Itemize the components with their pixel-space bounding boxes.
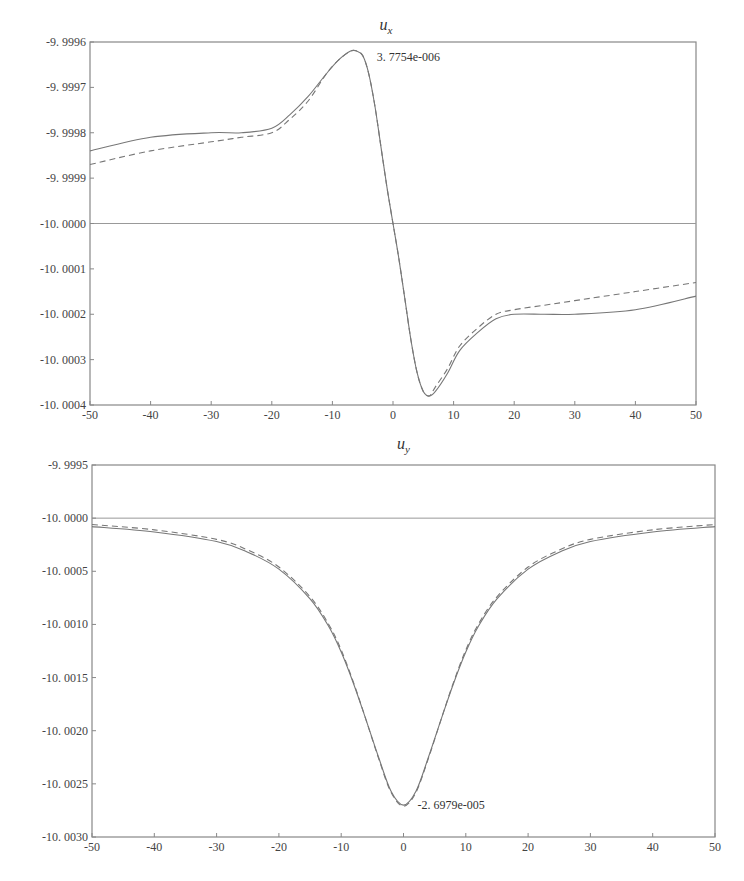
- x-tick-label: -40: [146, 840, 162, 854]
- x-tick-label: 10: [448, 408, 460, 422]
- y-tick-label: -10. 0001: [40, 262, 86, 276]
- y-tick-label: -10. 0025: [42, 777, 88, 791]
- uy-chart: -9. 9995-10. 0000-10. 0005-10. 0010-10. …: [42, 435, 721, 854]
- x-tick-label: -20: [271, 840, 287, 854]
- x-tick-label: 20: [508, 408, 520, 422]
- x-tick-label: -40: [143, 408, 159, 422]
- y-tick-label: -10. 0020: [42, 724, 88, 738]
- dashed-series-line: [92, 525, 715, 807]
- x-tick-label: -50: [82, 408, 98, 422]
- x-tick-label: -30: [209, 840, 225, 854]
- x-tick-label: -30: [203, 408, 219, 422]
- x-tick-label: 50: [690, 408, 702, 422]
- x-tick-label: 30: [569, 408, 581, 422]
- x-tick-label: -20: [264, 408, 280, 422]
- x-tick-label: 30: [584, 840, 596, 854]
- solid-series-line: [92, 527, 715, 805]
- y-tick-label: -10. 0003: [40, 353, 86, 367]
- chart-title: uy: [397, 435, 410, 455]
- x-tick-label: 20: [522, 840, 534, 854]
- extremum-annotation: 3. 7754e-006: [377, 50, 440, 64]
- chart-title: ux: [380, 16, 393, 36]
- y-tick-label: -10. 0005: [42, 564, 88, 578]
- x-tick-label: 0: [390, 408, 396, 422]
- y-tick-label: -10. 0030: [42, 830, 88, 844]
- y-tick-label: -10. 0010: [42, 617, 88, 631]
- x-tick-label: 50: [709, 840, 721, 854]
- extremum-annotation: -2. 6979e-005: [418, 798, 485, 812]
- y-tick-label: -10. 0000: [42, 511, 88, 525]
- x-tick-label: 0: [401, 840, 407, 854]
- x-tick-label: 40: [629, 408, 641, 422]
- x-tick-label: -10: [324, 408, 340, 422]
- figure: -9. 9996-9. 9997-9. 9998-9. 9999-10. 000…: [0, 0, 744, 881]
- y-tick-label: -9. 9999: [46, 171, 86, 185]
- y-tick-label: -9. 9998: [46, 126, 86, 140]
- x-tick-label: 40: [647, 840, 659, 854]
- y-tick-label: -10. 0004: [40, 398, 86, 412]
- y-tick-label: -9. 9995: [48, 458, 88, 472]
- y-tick-label: -10. 0000: [40, 217, 86, 231]
- plot-frame: [92, 465, 715, 837]
- ux-chart: -9. 9996-9. 9997-9. 9998-9. 9999-10. 000…: [40, 16, 702, 422]
- x-tick-label: -10: [333, 840, 349, 854]
- x-tick-label: -50: [84, 840, 100, 854]
- y-tick-label: -10. 0015: [42, 671, 88, 685]
- x-tick-label: 10: [460, 840, 472, 854]
- y-tick-label: -10. 0002: [40, 307, 86, 321]
- y-tick-label: -9. 9996: [46, 35, 86, 49]
- y-tick-label: -9. 9997: [46, 80, 86, 94]
